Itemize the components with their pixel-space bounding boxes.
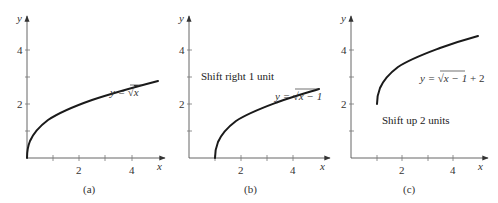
x-tick-label-2: 2 [76,164,82,176]
y-tick-label-2: 2 [179,98,185,110]
y-ticks [187,50,192,131]
y-ticks [349,50,354,131]
y-axis-label: y [178,12,184,24]
y-tick-label-2: 2 [17,98,23,110]
panel-a: y x 2 4 2 4 y = √x (a) [16,12,165,196]
panel-caption: (a) [83,183,96,196]
y-tick-label-2: 2 [341,98,347,110]
panel-c: y x 2 4 2 4 Shift up 2 units y = √x − 1 … [340,12,488,196]
x-axis-label: x [156,160,162,172]
equation-label: y = √x − 1 + 2 [419,72,484,84]
y-tick-label-4: 4 [179,44,185,56]
x-tick-label-2: 2 [238,164,244,176]
y-ticks [25,50,30,131]
panel-caption: (c) [403,183,416,196]
x-axis-label: x [477,160,483,172]
x-tick-label-4: 4 [290,164,296,176]
x-tick-label-4: 4 [450,164,456,176]
figure-canvas: y x 2 4 2 4 y = √x (a) y x 2 4 [0,0,498,203]
y-axis-label: y [340,12,346,24]
x-tick-label-4: 4 [129,164,135,176]
y-axis-label: y [16,12,22,24]
panel-caption: (b) [244,183,257,196]
equation-label: y = √x − 1 [274,90,322,102]
shift-annotation: Shift up 2 units [382,114,450,126]
y-tick-label-4: 4 [341,44,347,56]
x-axis-label: x [319,160,325,172]
equation-label: y = √x [109,86,139,98]
curve-sqrt-x-minus-1-plus-2 [377,36,478,104]
shift-annotation: Shift right 1 unit [201,70,274,82]
panel-b: y x 2 4 2 4 Shift right 1 unit y = √x − … [178,12,330,196]
y-tick-label-4: 4 [17,44,23,56]
x-tick-label-2: 2 [399,164,405,176]
